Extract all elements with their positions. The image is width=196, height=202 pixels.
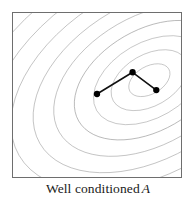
figure-container: Well conditionedA <box>0 0 196 202</box>
iterate-point-marker <box>153 87 159 93</box>
contour-line <box>53 13 181 165</box>
figure-caption: Well conditionedA <box>0 181 196 197</box>
contour-plot-svg <box>13 13 181 177</box>
iterate-path-group <box>94 69 160 97</box>
contour-line <box>27 13 181 177</box>
contour-line <box>78 17 181 143</box>
contour-line <box>123 57 176 103</box>
iterate-path-line <box>97 72 156 94</box>
caption-prefix-text: Well conditioned <box>46 181 140 196</box>
caption-matrix-variable: A <box>140 181 150 196</box>
contour-plot-frame <box>12 12 182 178</box>
iterate-point-markers <box>94 69 160 97</box>
contour-line <box>100 37 181 123</box>
iterate-point-marker <box>94 91 100 97</box>
iterate-point-marker <box>129 69 135 75</box>
